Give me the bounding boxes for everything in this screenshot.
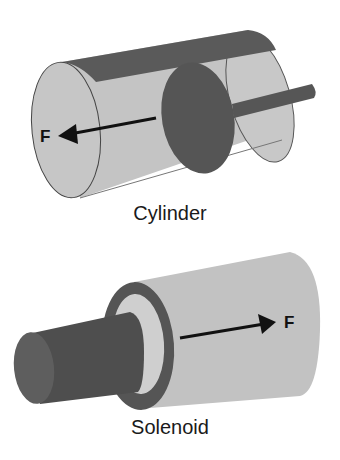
solenoid-force-label: F [284, 313, 294, 332]
cylinder-caption: Cylinder [133, 202, 207, 224]
solenoid-caption: Solenoid [131, 416, 209, 438]
cylinder-force-label: F [40, 127, 50, 146]
solenoid-figure: F Solenoid [10, 252, 320, 438]
diagram-canvas: F Cylinder F Solenoid [0, 0, 340, 460]
cylinder-figure: F Cylinder [25, 26, 316, 224]
